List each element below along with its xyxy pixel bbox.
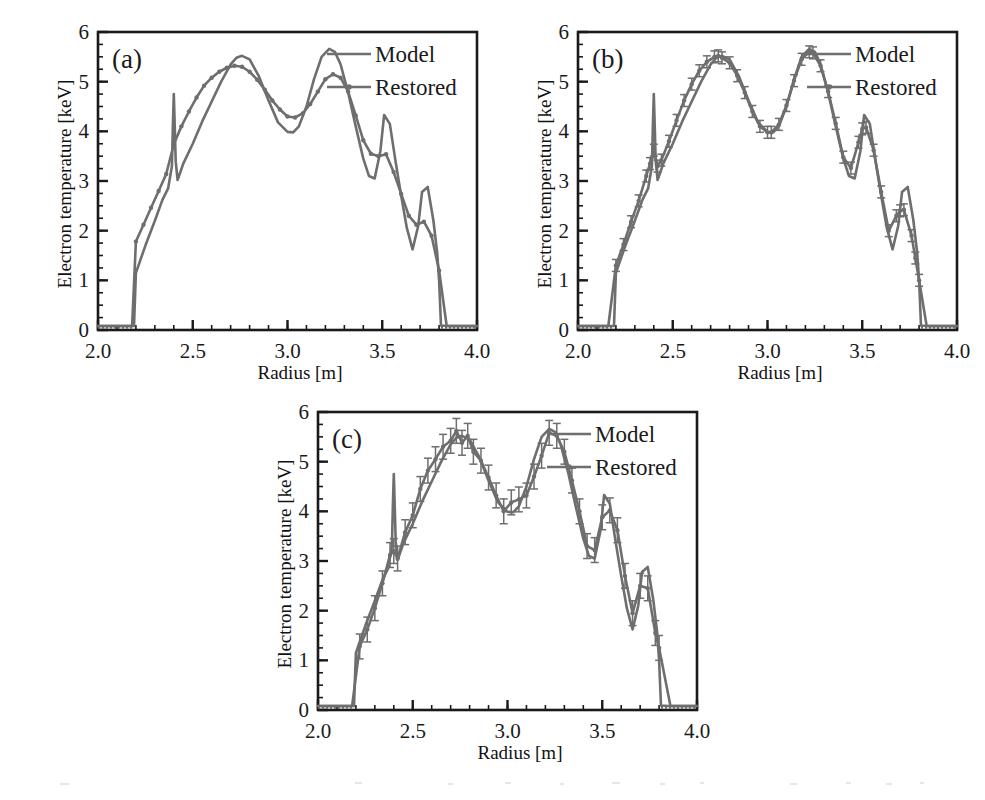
x-tick-label: 3.5 xyxy=(369,339,395,363)
y-tick-label: 1 xyxy=(559,268,570,292)
y-tick-label: 2 xyxy=(79,219,90,243)
restored-marker xyxy=(871,148,875,152)
x-tick-label: 3.5 xyxy=(849,339,875,363)
y-tick-label: 6 xyxy=(559,22,570,44)
restored-marker xyxy=(913,256,917,260)
y-tick-label: 1 xyxy=(79,268,90,292)
x-tick-label: 3.0 xyxy=(754,339,780,363)
restored-marker xyxy=(338,75,342,79)
x-tick-label: 2.5 xyxy=(180,339,206,363)
panel-label: (a) xyxy=(112,44,142,74)
restored-marker xyxy=(750,109,754,113)
y-tick-label: 3 xyxy=(299,549,310,573)
restored-marker xyxy=(369,151,373,155)
restored-marker xyxy=(600,515,604,519)
restored-marker xyxy=(727,61,731,65)
restored-marker xyxy=(879,190,883,194)
restored-marker xyxy=(391,170,395,174)
y-tick-label: 1 xyxy=(299,648,310,672)
x-tick-label: 2.5 xyxy=(660,339,686,363)
restored-marker xyxy=(682,98,686,102)
restored-marker xyxy=(570,478,574,482)
x-tick-label: 4.0 xyxy=(464,339,490,363)
restored-marker xyxy=(577,509,581,513)
restored-marker xyxy=(690,82,694,86)
legend-model-label: Model xyxy=(855,42,915,67)
restored-marker xyxy=(720,56,724,60)
y-tick-label: 6 xyxy=(79,22,90,44)
restored-marker xyxy=(466,434,470,438)
restored-marker xyxy=(585,544,589,548)
legend-restored-label: Restored xyxy=(595,455,677,480)
restored-marker xyxy=(187,109,191,113)
restored-marker xyxy=(608,508,612,512)
restored-marker xyxy=(621,242,625,246)
restored-marker xyxy=(614,263,618,267)
restored-marker xyxy=(623,574,627,578)
x-tick-label: 4.0 xyxy=(684,719,710,743)
restored-marker xyxy=(293,115,297,119)
restored-marker xyxy=(448,439,452,443)
restored-marker xyxy=(638,584,642,588)
panel-c-plot: 2.02.53.03.54.00123456(c)ModelRestored xyxy=(240,402,710,772)
restored-marker xyxy=(323,77,327,81)
y-tick-label: 4 xyxy=(299,499,310,523)
y-tick-label: 0 xyxy=(299,698,310,722)
panel-c-x-axis-label: Radius [m] xyxy=(320,742,720,764)
y-tick-label: 5 xyxy=(79,70,90,94)
restored-marker xyxy=(712,55,716,59)
x-tick-label: 4.0 xyxy=(944,339,970,363)
panel-b-plot: 2.02.53.03.54.00123456(b)ModelRestored xyxy=(500,22,970,392)
restored-marker xyxy=(667,139,671,143)
restored-marker xyxy=(460,441,464,445)
restored-marker xyxy=(149,206,153,210)
restored-marker xyxy=(902,208,906,212)
restored-marker xyxy=(172,142,176,146)
restored-marker xyxy=(141,223,145,227)
restored-marker xyxy=(758,124,762,128)
restored-marker xyxy=(357,644,361,648)
restored-marker xyxy=(646,586,650,590)
restored-marker xyxy=(247,70,251,74)
restored-marker xyxy=(255,77,259,81)
restored-marker xyxy=(841,155,845,159)
restored-marker xyxy=(834,121,838,125)
restored-marker xyxy=(392,549,396,553)
restored-marker xyxy=(657,646,661,650)
restored-marker xyxy=(471,450,475,454)
restored-marker xyxy=(361,138,365,142)
x-tick-label: 2.0 xyxy=(305,719,331,743)
restored-marker xyxy=(433,457,437,461)
restored-marker xyxy=(373,606,377,610)
legend-restored-marker xyxy=(346,84,352,90)
restored-marker xyxy=(376,154,380,158)
restored-marker xyxy=(615,528,619,532)
panel-b: Electron temperature [keV] 2.02.53.03.54… xyxy=(500,22,970,392)
restored-marker xyxy=(539,454,543,458)
restored-marker xyxy=(331,72,335,76)
restored-marker xyxy=(217,70,221,74)
y-tick-label: 5 xyxy=(299,450,310,474)
restored-marker xyxy=(648,161,652,165)
restored-marker xyxy=(395,556,399,560)
restored-marker xyxy=(278,107,282,111)
restored-marker xyxy=(156,189,160,193)
restored-marker xyxy=(849,166,853,170)
restored-marker xyxy=(426,468,430,472)
restored-marker xyxy=(909,233,913,237)
restored-marker xyxy=(134,239,138,243)
restored-curve xyxy=(98,66,477,326)
restored-marker xyxy=(414,223,418,227)
restored-marker xyxy=(917,278,921,282)
restored-marker xyxy=(365,627,369,631)
y-tick-label: 3 xyxy=(559,169,570,193)
x-tick-label: 3.5 xyxy=(589,719,615,743)
restored-marker xyxy=(826,89,830,93)
restored-marker xyxy=(655,164,659,168)
legend-restored-marker xyxy=(566,464,572,470)
restored-marker xyxy=(743,90,747,94)
restored-marker xyxy=(629,220,633,224)
restored-marker xyxy=(240,65,244,69)
panel-a: Electron temperature [keV] 2.02.53.03.54… xyxy=(20,22,490,392)
restored-marker xyxy=(422,220,426,224)
